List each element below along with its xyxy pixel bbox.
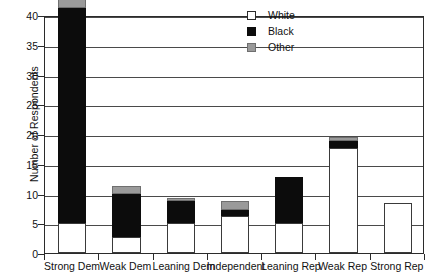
legend-item-black: Black (247, 24, 357, 38)
black-square-icon (247, 27, 256, 36)
y-tick-label: 15 (4, 160, 38, 171)
bar-segment-other[interactable] (329, 137, 357, 141)
stacked-bar[interactable] (384, 15, 412, 253)
bar-segment-black[interactable] (58, 8, 86, 223)
legend-label-other: Other (268, 42, 294, 53)
x-tick-label: Leaning Dem (153, 261, 207, 272)
bar-segment-black[interactable] (221, 210, 249, 215)
bar-slot (371, 17, 425, 253)
bar-segment-base (112, 237, 140, 253)
legend-item-white: White (247, 8, 357, 22)
bar-segment-white[interactable] (221, 216, 249, 253)
x-tick-label: Weak Rep (315, 261, 369, 272)
y-axis: 0510152025303540 (0, 0, 44, 280)
stacked-bar[interactable] (58, 15, 86, 253)
y-tick-label: 25 (4, 100, 38, 111)
x-tick-label: Independent (207, 261, 261, 272)
bar-segment-other[interactable] (167, 198, 195, 201)
stacked-bar[interactable] (112, 15, 140, 253)
bar-segment-black[interactable] (329, 141, 357, 148)
bar-segment-white[interactable] (329, 148, 357, 253)
y-tick-label: 5 (4, 219, 38, 230)
legend-label-black: Black (268, 26, 294, 37)
x-tick-mark (315, 254, 316, 260)
bar-segment-base (58, 223, 86, 253)
y-tick-label: 10 (4, 190, 38, 201)
bar-slot (99, 17, 153, 253)
white-square-icon (247, 11, 256, 20)
bar-segment-other[interactable] (112, 186, 140, 194)
stacked-bar[interactable] (167, 15, 195, 253)
x-tick-mark (424, 254, 425, 260)
bar-segment-black[interactable] (275, 177, 303, 223)
bar-segment-white[interactable] (384, 203, 412, 253)
bar-segment-base (167, 223, 195, 253)
bar-segment-black[interactable] (167, 201, 195, 223)
x-tick-label: Weak Dem (98, 261, 152, 272)
y-tick-label: 20 (4, 130, 38, 141)
y-tick-label: 30 (4, 71, 38, 82)
legend-item-other: Other (247, 40, 357, 54)
legend-label-white: White (268, 10, 295, 21)
y-tick-label: 0 (4, 249, 38, 260)
y-tick-label: 40 (4, 11, 38, 22)
bar-segment-base (275, 223, 303, 253)
x-tick-label: Strong Rep (370, 261, 424, 272)
bar-group (45, 17, 423, 253)
x-tick-label: Leaning Rep (261, 261, 315, 272)
x-tick-label: Strong Dem (44, 261, 98, 272)
bar-slot (154, 17, 208, 253)
legend: White Black Other (247, 8, 357, 56)
stacked-bar[interactable] (221, 15, 249, 253)
bar-segment-other[interactable] (58, 0, 86, 8)
y-tick-label: 35 (4, 41, 38, 52)
stacked-bar-chart: Number of Respondents 0510152025303540 S… (0, 0, 427, 280)
bar-slot (45, 17, 99, 253)
gray-square-icon (247, 43, 256, 52)
plot-area (44, 16, 424, 254)
bar-segment-other[interactable] (221, 201, 249, 211)
bar-segment-black[interactable] (112, 194, 140, 237)
